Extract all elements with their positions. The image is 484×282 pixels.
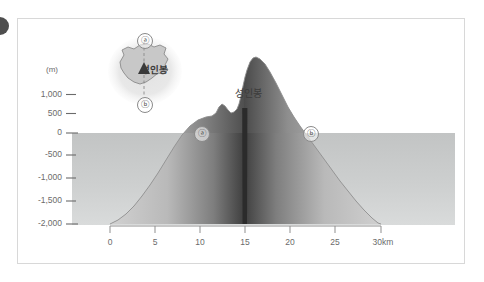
profile-marker-b: ⓑ (303, 126, 319, 142)
y-tick-label-500: 500 (18, 109, 62, 118)
x-tick-label-20: 20 (274, 238, 306, 247)
y-axis-unit-label: (m) (46, 65, 58, 74)
x-tick-label-10: 10 (184, 238, 216, 247)
x-tick-label-30km: 30km (364, 238, 402, 247)
profile-marker-a: ⓐ (194, 126, 210, 142)
y-tick-label-1000: 1,000 (18, 90, 62, 99)
x-tick-label-25: 25 (319, 238, 351, 247)
profile-peak-label: 성인봉 (235, 85, 262, 100)
x-tick-label-5: 5 (139, 238, 171, 247)
x-axis-ticks (110, 226, 381, 233)
volcanic-conduit (242, 108, 247, 224)
x-tick-label-15: 15 (229, 238, 261, 247)
figure-root: (m) 1,000 500 0 -500 -1,000 -1,500 -2,00… (0, 0, 484, 282)
y-tick-label-minus1000: -1,000 (18, 173, 62, 182)
x-tick-label-0: 0 (94, 238, 126, 247)
inset-summit-label: 성인봉 (141, 62, 168, 76)
y-tick-label-minus500: -500 (18, 150, 62, 159)
y-tick-label-minus1500: -1,500 (18, 196, 62, 205)
inset-marker-b: ⓑ (137, 97, 153, 113)
y-tick-label-0: 0 (18, 128, 62, 137)
inset-marker-a: ⓐ (137, 33, 153, 49)
y-tick-label-minus2000: -2,000 (18, 219, 62, 228)
